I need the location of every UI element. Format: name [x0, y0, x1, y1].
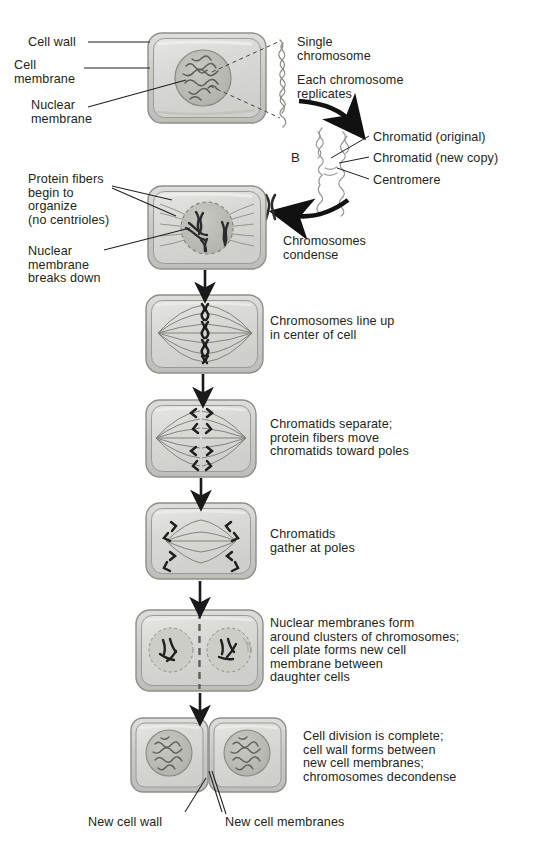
label-centromere: Centromere	[373, 174, 441, 188]
condensed-chromosome-x-glyph	[266, 195, 275, 219]
cell-early-anaphase	[146, 400, 256, 477]
cell-late-anaphase	[146, 503, 256, 579]
cell-interphase	[148, 33, 266, 123]
label-new-cell-membranes: New cell membranes	[225, 816, 344, 830]
flow-arrows	[200, 270, 205, 715]
label-cell-division-complete: Cell division is complete; cell wall for…	[303, 730, 456, 784]
leader-lines-prophase	[104, 186, 190, 250]
label-single-chromosome: Single chromosome	[297, 36, 371, 63]
cell-telophase	[136, 610, 263, 691]
mitosis-diagram: Cell wall Cell membrane Nuclear membrane…	[0, 0, 533, 861]
label-each-chromosome-replicates: Each chromosome replicates	[297, 74, 404, 101]
arrow-condense-icon	[289, 200, 348, 216]
label-nuclear-membranes-form: Nuclear membranes form around clusters o…	[270, 617, 459, 685]
label-nuclear-membrane-breaks-down: Nuclear membrane breaks down	[28, 245, 101, 286]
label-protein-fibers: Protein fibers begin to organize (no cen…	[28, 173, 109, 227]
leader-lines-interphase	[84, 42, 186, 107]
panel-letter: B	[291, 151, 300, 166]
cell-prophase	[148, 186, 266, 269]
label-chromosomes-condense: Chromosomes condense	[283, 235, 366, 262]
replicated-chromosome-pair-glyph	[316, 128, 349, 216]
label-chromatid-original: Chromatid (original)	[373, 131, 486, 145]
leader-lines-chromatid	[331, 136, 369, 179]
arrow-replication-icon	[299, 101, 353, 124]
label-chromatids-gather: Chromatids gather at poles	[270, 528, 355, 555]
zoom-callout-lines	[210, 42, 280, 118]
cell-metaphase	[146, 295, 263, 373]
label-chromatid-new-copy: Chromatid (new copy)	[373, 152, 498, 166]
label-chromosomes-line-up: Chromosomes line up in center of cell	[270, 315, 394, 342]
label-nuclear-membrane: Nuclear membrane	[31, 99, 92, 126]
leader-lines-daughter	[185, 771, 226, 814]
label-cell-wall: Cell wall	[28, 36, 76, 50]
label-cell-membrane: Cell membrane	[14, 59, 75, 86]
cell-daughter-cells	[131, 718, 286, 792]
label-chromatids-separate: Chromatids separate; protein fibers move…	[270, 418, 409, 459]
label-new-cell-wall: New cell wall	[88, 816, 162, 830]
single-chromosome-strand-glyph	[279, 40, 286, 127]
